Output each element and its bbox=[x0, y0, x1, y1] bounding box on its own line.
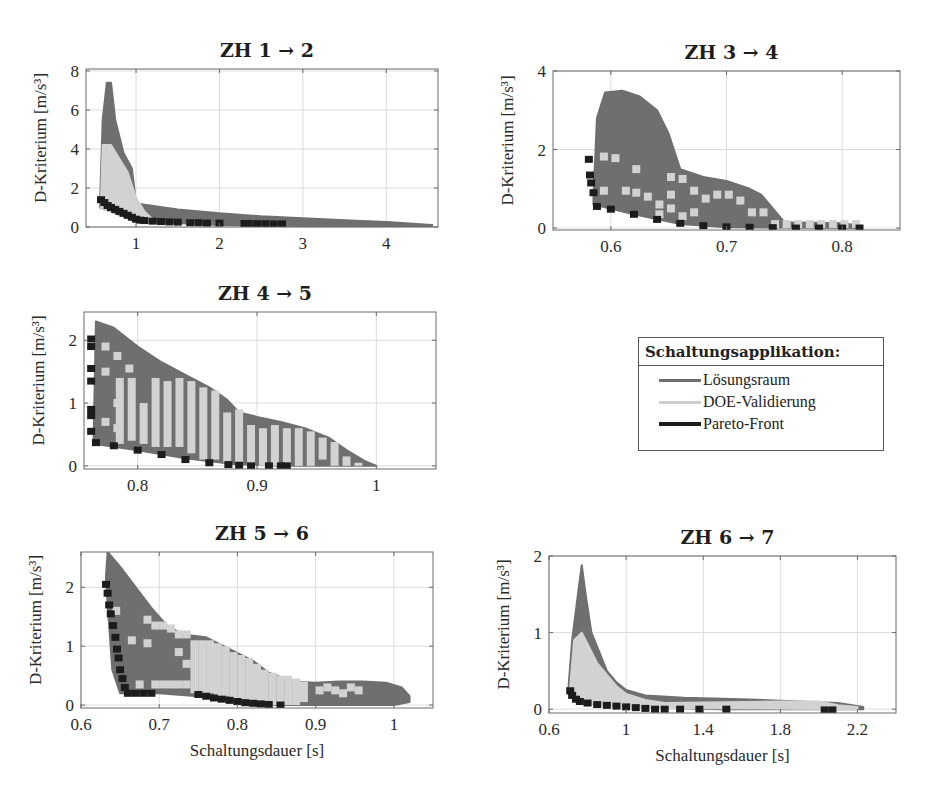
doe-bar bbox=[307, 431, 315, 466]
x-tick-label: 0.6 bbox=[600, 237, 621, 256]
doe-square bbox=[736, 197, 744, 205]
doe-square bbox=[151, 622, 159, 630]
doe-square bbox=[151, 680, 159, 688]
x-tick-label: 2.2 bbox=[847, 720, 868, 739]
series-region-loesungsraum bbox=[100, 83, 432, 227]
pareto-point bbox=[165, 218, 173, 225]
pareto-point bbox=[205, 459, 213, 466]
y-tick-label: 0 bbox=[534, 700, 543, 719]
doe-square bbox=[760, 208, 768, 216]
y-axis-label: D-Kriterium [m/s³] bbox=[494, 559, 513, 689]
pareto-point bbox=[278, 220, 286, 227]
doe-square bbox=[167, 625, 175, 633]
pareto-point bbox=[584, 700, 592, 707]
legend-label: DOE-Validierung bbox=[703, 393, 816, 411]
doe-square bbox=[159, 622, 167, 630]
pareto-point bbox=[821, 706, 829, 713]
pareto-point bbox=[111, 634, 119, 641]
pareto-point bbox=[576, 698, 584, 705]
doe-bar bbox=[235, 409, 243, 466]
pareto-point bbox=[203, 220, 211, 227]
plot-area bbox=[585, 91, 864, 232]
doe-square bbox=[600, 153, 608, 161]
pareto-point bbox=[87, 336, 95, 343]
doe-square bbox=[600, 187, 608, 195]
doe-square bbox=[748, 208, 756, 216]
pareto-point bbox=[102, 581, 110, 588]
doe-bar bbox=[261, 670, 269, 702]
pareto-point bbox=[149, 218, 157, 225]
panel-title: ZH 6 → 7 bbox=[680, 526, 774, 548]
series-region-loesungsraum bbox=[593, 91, 861, 228]
doe-bar bbox=[116, 378, 124, 444]
doe-bar bbox=[152, 378, 160, 447]
doe-square bbox=[690, 187, 698, 195]
y-tick-label: 0 bbox=[66, 696, 75, 715]
doe-square bbox=[183, 680, 191, 688]
pareto-point bbox=[593, 701, 601, 708]
pareto-point bbox=[607, 206, 615, 213]
doe-square bbox=[175, 648, 183, 656]
pareto-point bbox=[241, 699, 249, 706]
doe-square bbox=[183, 630, 191, 638]
pareto-point bbox=[676, 220, 684, 227]
x-axis-label: Schaltungsdauer [s] bbox=[655, 746, 790, 765]
pareto-point bbox=[589, 189, 597, 196]
doe-bar bbox=[300, 682, 308, 703]
pareto-point bbox=[140, 217, 148, 224]
doe-square bbox=[143, 639, 151, 647]
doe-bar bbox=[295, 428, 303, 466]
pareto-point bbox=[632, 704, 640, 711]
pareto-point bbox=[247, 462, 255, 469]
pareto-point bbox=[587, 179, 595, 186]
pareto-point bbox=[653, 216, 661, 223]
y-tick-label: 0 bbox=[538, 219, 547, 238]
pareto-point bbox=[132, 690, 140, 697]
doe-square bbox=[347, 683, 355, 691]
y-tick-label: 1 bbox=[66, 637, 75, 656]
doe-square bbox=[679, 212, 687, 220]
doe-bar bbox=[259, 428, 267, 466]
x-axis-label: Schaltungsdauer [s] bbox=[190, 741, 325, 760]
doe-bar bbox=[198, 640, 206, 693]
doe-square bbox=[323, 683, 331, 691]
doe-square bbox=[159, 680, 167, 688]
pareto-point bbox=[92, 439, 100, 446]
pareto-point bbox=[115, 654, 123, 661]
doe-bar bbox=[269, 673, 277, 705]
panel-title: ZH 1 → 2 bbox=[220, 39, 314, 61]
doe-square bbox=[783, 220, 791, 228]
doe-square bbox=[679, 175, 687, 183]
doe-bar bbox=[237, 655, 245, 699]
legend-label: Pareto-Front bbox=[703, 415, 784, 433]
pareto-point bbox=[157, 218, 165, 225]
doe-bar bbox=[284, 676, 292, 705]
pareto-point bbox=[676, 706, 684, 713]
doe-square bbox=[355, 686, 363, 694]
doe-square bbox=[632, 189, 640, 197]
doe-square bbox=[101, 343, 109, 351]
pareto-point bbox=[87, 406, 95, 413]
x-tick-label: 1 bbox=[372, 476, 381, 495]
x-tick-label: 0.9 bbox=[305, 715, 326, 734]
y-tick-label: 4 bbox=[538, 62, 547, 81]
plot-area bbox=[97, 83, 432, 228]
legend-title: Schaltungsapplikation: bbox=[639, 338, 883, 366]
x-tick-label: 0.7 bbox=[716, 237, 738, 256]
pareto-point bbox=[233, 698, 241, 705]
doe-bar bbox=[128, 378, 136, 441]
plot-area bbox=[87, 321, 376, 469]
doe-square bbox=[690, 208, 698, 216]
doe-bar bbox=[271, 425, 279, 466]
pareto-point bbox=[283, 462, 291, 469]
doe-square bbox=[339, 689, 347, 697]
doe-square bbox=[113, 352, 121, 360]
doe-square bbox=[101, 418, 109, 426]
pareto-point bbox=[585, 156, 593, 163]
doe-square bbox=[655, 200, 663, 208]
x-tick-label: 1.4 bbox=[693, 720, 715, 739]
y-tick-label: 6 bbox=[71, 101, 80, 120]
doe-square bbox=[667, 204, 675, 212]
doe-square bbox=[702, 195, 710, 203]
pareto-point bbox=[195, 219, 203, 226]
